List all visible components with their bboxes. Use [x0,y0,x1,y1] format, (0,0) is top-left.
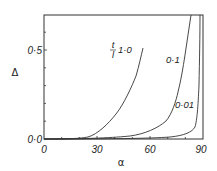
y-tick-label-0: 0·0 [28,134,43,145]
x-tick-label-30: 30 [91,144,103,155]
x-tick-label-90: 90 [195,144,207,155]
curve-0-01 [44,15,200,139]
chart: 0·0 0·5 Δ 0 30 60 90 α t l 1·0 0·1 0·01 [0,0,217,171]
plot-frame [44,15,203,139]
curve-0-1 [44,15,191,139]
fraction-denominator: l [112,49,115,60]
x-tick-label-0: 0 [41,144,47,155]
y-axis-title: Δ [12,67,19,78]
curves [44,15,200,139]
curve-label-0-01: 0·01 [175,99,194,110]
y-tick-label-0-5: 0·5 [28,45,43,56]
curve-1-0 [44,48,143,139]
x-axis-title: α [118,157,125,168]
x-tick-label-60: 60 [144,144,156,155]
curve-label-0-1: 0·1 [166,54,180,65]
curve-label-1-0: 1·0 [118,44,132,55]
